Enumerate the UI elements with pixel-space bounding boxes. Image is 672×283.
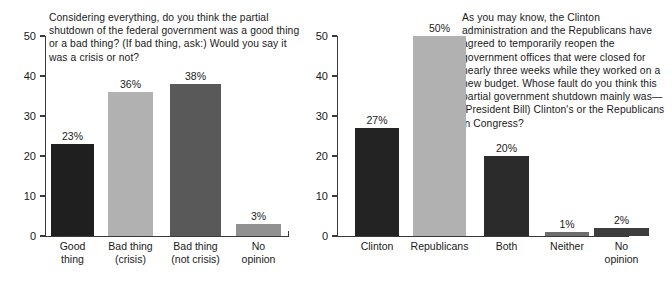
category-label-right-4: No opinion xyxy=(605,240,639,266)
y-tick-label-20: 20 xyxy=(14,150,36,162)
y-tick-10 xyxy=(40,195,45,196)
bar-right-0 xyxy=(355,128,399,236)
category-label-left-3: No opinion xyxy=(242,240,276,266)
bar-value-label-right-4: 2% xyxy=(614,214,629,226)
bar-value-label-left-0: 23% xyxy=(62,130,83,142)
y-tick-0 xyxy=(332,235,337,236)
bar-left-0 xyxy=(51,144,94,236)
bar-left-3 xyxy=(236,224,281,236)
bar-value-label-left-2: 38% xyxy=(185,70,206,82)
y-tick-20 xyxy=(332,155,337,156)
x-axis-line-left xyxy=(45,236,289,237)
bar-value-label-left-3: 3% xyxy=(251,210,266,222)
category-label-right-0: Clinton xyxy=(361,240,394,253)
y-tick-30 xyxy=(40,115,45,116)
bar-value-label-right-2: 20% xyxy=(496,142,517,154)
y-tick-50 xyxy=(40,35,45,36)
bar-right-4 xyxy=(594,228,649,236)
y-tick-40 xyxy=(332,75,337,76)
plot-area-left: 01020304050 23%36%38%3% Good thingBad th… xyxy=(0,0,336,283)
bar-value-label-left-1: 36% xyxy=(120,78,141,90)
category-label-right-1: Republicans xyxy=(411,240,469,253)
y-tick-label-10: 10 xyxy=(306,190,328,202)
y-tick-10 xyxy=(332,195,337,196)
plot-area-right: 01020304050 27%50%20%1%2% ClintonRepubli… xyxy=(336,0,672,283)
x-axis-endcap-left xyxy=(288,231,289,236)
y-tick-30 xyxy=(332,115,337,116)
y-axis-line-right xyxy=(337,36,338,237)
y-tick-label-50: 50 xyxy=(306,30,328,42)
bar-value-label-right-1: 50% xyxy=(429,22,450,34)
bar-right-1 xyxy=(413,36,466,236)
y-tick-0 xyxy=(40,235,45,236)
y-tick-label-50: 50 xyxy=(14,30,36,42)
category-label-left-1: Bad thing (crisis) xyxy=(108,240,152,266)
category-label-right-3: Neither xyxy=(550,240,584,253)
bar-right-3 xyxy=(545,232,589,236)
bar-right-2 xyxy=(484,156,529,236)
y-tick-label-0: 0 xyxy=(14,230,36,242)
poll-bar-chart-figure: Considering everything, do you think the… xyxy=(0,0,672,283)
y-tick-label-40: 40 xyxy=(306,70,328,82)
y-tick-label-40: 40 xyxy=(14,70,36,82)
y-tick-50 xyxy=(332,35,337,36)
y-tick-20 xyxy=(40,155,45,156)
category-label-left-0: Good thing xyxy=(60,240,86,266)
y-tick-label-30: 30 xyxy=(14,110,36,122)
y-tick-40 xyxy=(40,75,45,76)
y-tick-label-20: 20 xyxy=(306,150,328,162)
bar-left-1 xyxy=(108,92,153,236)
category-label-left-2: Bad thing (not crisis) xyxy=(171,240,219,266)
bar-left-2 xyxy=(170,84,221,236)
x-axis-line-right xyxy=(337,236,629,237)
y-tick-label-10: 10 xyxy=(14,190,36,202)
chart-panel-right: As you may know, the Clinton administrat… xyxy=(336,0,672,283)
y-tick-label-0: 0 xyxy=(306,230,328,242)
y-axis-line-left xyxy=(45,36,46,237)
bar-value-label-right-0: 27% xyxy=(366,114,387,126)
bar-value-label-right-3: 1% xyxy=(559,218,574,230)
chart-panel-left: Considering everything, do you think the… xyxy=(0,0,336,283)
y-tick-label-30: 30 xyxy=(306,110,328,122)
category-label-right-2: Both xyxy=(496,240,518,253)
